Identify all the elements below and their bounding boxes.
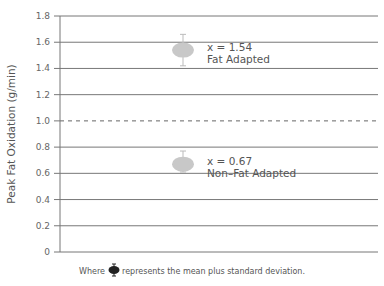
mean-label: x = 0.67	[207, 155, 252, 167]
mean-label: x = 1.54	[207, 41, 252, 53]
y-tick-label: 0.6	[36, 168, 51, 178]
series-label: Fat Adapted	[207, 53, 270, 65]
data-point: x = 1.54Fat Adapted	[172, 34, 270, 65]
series-label: Non–Fat Adapted	[207, 167, 296, 179]
footnote-before: Where	[79, 267, 105, 276]
data-point: x = 0.67Non–Fat Adapted	[172, 151, 296, 179]
y-tick-label: 0.8	[36, 142, 51, 152]
y-tick-label: 1.8	[36, 11, 51, 21]
y-tick-label: 1.0	[36, 116, 51, 126]
y-tick-label: 0	[44, 247, 50, 257]
y-axis-label: Peak Fat Oxidation (g/min)	[5, 64, 17, 203]
y-tick-label: 1.2	[36, 90, 50, 100]
y-tick-label: 0.2	[36, 221, 50, 231]
chart-plot: 00.20.40.60.81.01.21.41.61.8Peak Fat Oxi…	[0, 0, 384, 260]
footnote: Where represents the mean plus standard …	[0, 263, 384, 277]
footnote-after: represents the mean plus standard deviat…	[122, 267, 305, 276]
y-tick-label: 1.6	[36, 37, 51, 47]
y-tick-label: 1.4	[36, 63, 51, 73]
y-tick-label: 0.4	[36, 195, 51, 205]
mean-sd-marker-icon	[108, 263, 120, 277]
